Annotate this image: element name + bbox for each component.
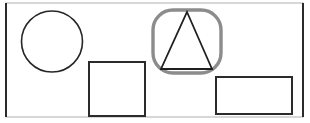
shape-canvas xyxy=(0,0,310,123)
figure-container: Geometric shapes line drawing xyxy=(0,0,310,123)
